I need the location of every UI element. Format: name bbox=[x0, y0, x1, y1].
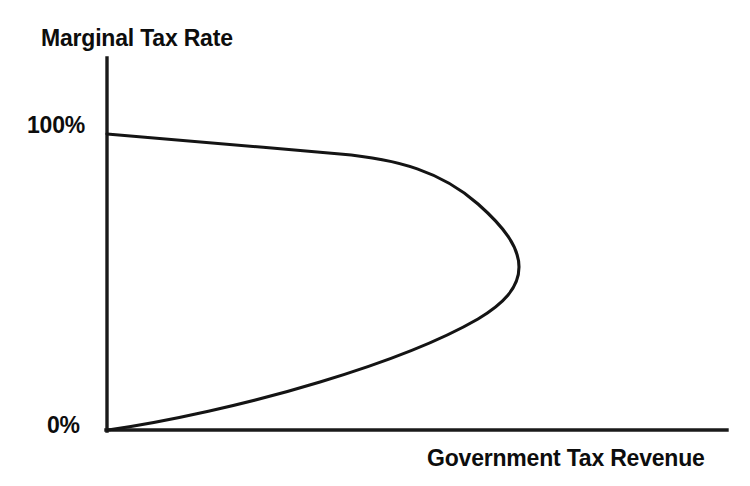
y-axis-title: Marginal Tax Rate bbox=[41, 25, 233, 52]
y-tick-label-0-percent: 0% bbox=[47, 412, 80, 439]
laffer-curve-path bbox=[107, 134, 519, 430]
laffer-curve-figure: Marginal Tax Rate 100% 0% Government Tax… bbox=[0, 0, 750, 486]
x-axis-title: Government Tax Revenue bbox=[427, 445, 705, 472]
y-tick-label-100-percent: 100% bbox=[27, 112, 85, 139]
chart-canvas bbox=[0, 0, 750, 486]
